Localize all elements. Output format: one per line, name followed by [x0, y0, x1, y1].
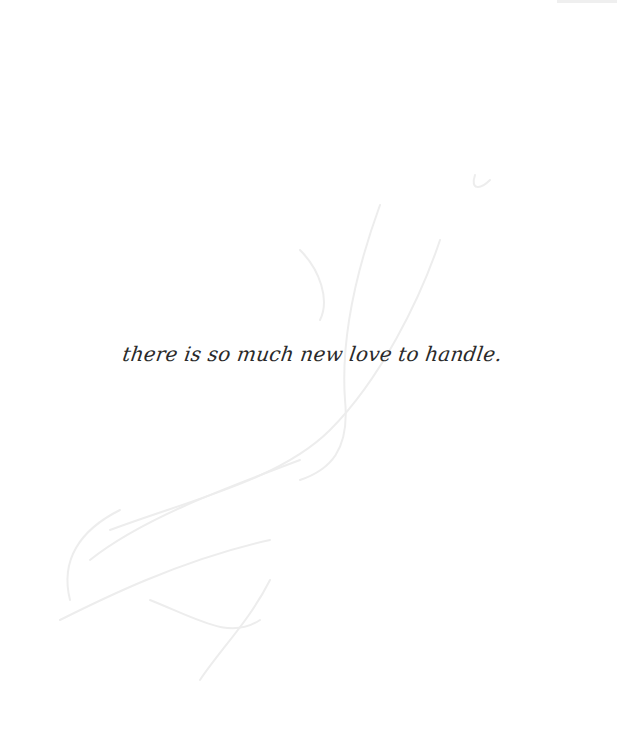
bleed-through-script-decoration [0, 0, 617, 732]
book-page: there is so much new love to handle. [0, 0, 617, 732]
script-text-line: there is so much new love to handle. [121, 342, 504, 366]
scan-edge-mark [557, 0, 617, 3]
